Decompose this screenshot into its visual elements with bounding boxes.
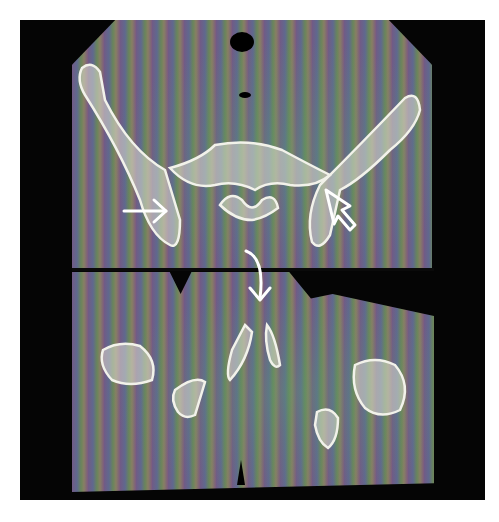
- left-iliac-bone: [310, 96, 420, 246]
- right-ischium: [173, 380, 205, 417]
- vertebral-canal: [220, 196, 278, 220]
- right-pubic-bone: [228, 325, 252, 380]
- left-ischium: [315, 410, 338, 448]
- ct-image-frame: [20, 20, 485, 500]
- right-iliac-bone: [80, 65, 180, 246]
- air-pocket: [230, 32, 254, 52]
- left-pubic-bone: [266, 325, 280, 367]
- air-pocket-small: [239, 92, 251, 98]
- left-femoral-head: [354, 360, 405, 415]
- sacrum: [170, 142, 330, 190]
- curved-arrow-icon: [246, 251, 270, 300]
- anatomy-overlay: [20, 20, 485, 500]
- intergluteal-cleft: [237, 460, 245, 485]
- right-femoral-head: [102, 344, 154, 384]
